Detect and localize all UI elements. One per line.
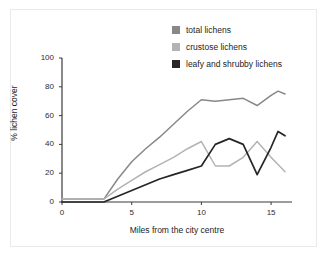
y-tick-label: 80: [32, 82, 54, 91]
series-line-leafy-and-shrubby-lichens: [62, 131, 285, 202]
series-line-crustose-lichens: [62, 142, 285, 200]
data-series-group: [62, 91, 285, 202]
legend-swatch-icon-total-lichens: [172, 26, 180, 34]
legend-swatch-icon-crustose-lichens: [172, 43, 180, 51]
y-axis-label: % lichen cover: [9, 73, 19, 153]
axis-lines: [62, 58, 292, 202]
series-line-total-lichens: [62, 91, 285, 199]
chart-figure: 020406080100051015 % lichen cover Miles …: [0, 0, 329, 258]
legend-item-total-lichens: total lichens: [172, 22, 322, 37]
legend-label-crustose-lichens: crustose lichens: [186, 42, 247, 52]
y-tick-label: 0: [32, 197, 54, 206]
legend-label-leafy-and-shrubby-lichens: leafy and shrubby lichens: [186, 59, 282, 69]
y-tick-label: 60: [32, 111, 54, 120]
chart-legend: total lichens crustose lichens leafy and…: [172, 22, 322, 73]
legend-label-total-lichens: total lichens: [186, 25, 231, 35]
y-tick-label: 40: [32, 139, 54, 148]
x-tick-label: 5: [122, 208, 142, 217]
x-tick-label: 15: [261, 208, 281, 217]
y-tick-label: 100: [32, 53, 54, 62]
x-tick-label: 10: [191, 208, 211, 217]
x-axis-label: Miles from the city centre: [62, 225, 292, 235]
x-tick-label: 0: [52, 208, 72, 217]
y-tick-label: 20: [32, 168, 54, 177]
legend-item-crustose-lichens: crustose lichens: [172, 39, 322, 54]
legend-swatch-icon-leafy-and-shrubby-lichens: [172, 60, 180, 68]
legend-item-leafy-and-shrubby-lichens: leafy and shrubby lichens: [172, 56, 322, 71]
